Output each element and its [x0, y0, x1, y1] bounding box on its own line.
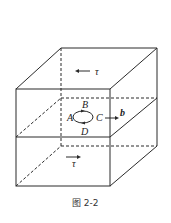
tau-top-label: τ	[95, 66, 99, 77]
right-bottom-edge	[110, 146, 157, 186]
label-D: D	[80, 126, 89, 137]
loop-arrow-bottom-icon	[81, 122, 85, 125]
figure-caption: 图 2-2	[72, 198, 99, 208]
tau-top-arrowhead-icon	[75, 69, 79, 73]
label-B: B	[82, 99, 88, 110]
tau-bottom-arrowhead-icon	[77, 155, 81, 159]
dislocation-loop	[73, 111, 93, 123]
tau-bottom-label: τ	[72, 158, 76, 169]
hidden-mid-left	[16, 98, 61, 137]
hidden-left-bottom	[16, 146, 61, 186]
label-C: C	[96, 112, 103, 123]
cube-diagram: τ B A C D b τ 图 2-2	[0, 0, 171, 223]
label-b: b	[120, 107, 125, 118]
b-arrowhead-icon	[115, 116, 119, 120]
label-A: A	[66, 112, 74, 123]
top-face	[16, 48, 157, 89]
